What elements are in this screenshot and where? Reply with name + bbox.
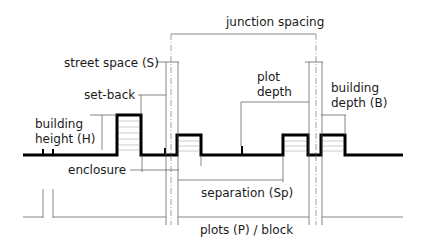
label-building-height-2: height (H) [35,132,95,146]
label-building-height-1: building [35,117,83,131]
urban-section-diagram: junction spacing street space (S) set-ba… [0,0,422,247]
label-plot-depth-1: plot [257,70,280,84]
label-set-back: set-back [84,88,135,102]
label-street-space: street space (S) [64,56,159,70]
label-plot-depth-2: depth [257,85,292,99]
label-junction-spacing: junction spacing [225,15,324,29]
label-enclosure: enclosure [68,163,126,177]
street-space-dimension [156,62,323,225]
label-building-depth-2: depth (B) [331,96,387,110]
plot-depth-dimension [241,102,309,146]
label-building-depth-1: building [331,81,379,95]
separation-dimension [178,155,283,182]
enclosure-dimension [130,155,179,172]
label-plots-block: plots (P) / block [200,223,293,237]
building-depth-dimension [321,115,346,135]
label-separation: separation (Sp) [201,186,293,200]
set-back-dimension [138,95,166,115]
